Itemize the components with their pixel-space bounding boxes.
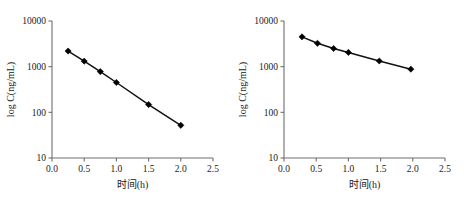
y-tick-label: 10000	[254, 16, 278, 26]
data-point-marker	[330, 45, 336, 51]
y-tick-label: 100	[32, 108, 47, 118]
x-tick-label: 0.5	[310, 164, 322, 174]
x-tick-label: 0.0	[46, 164, 58, 174]
x-tick-label: 1.0	[342, 164, 354, 174]
y-axis-tick-labels: 10000100010010	[254, 16, 278, 163]
axis-tick-marks	[281, 21, 446, 162]
y-axis-title: log C(ng/mL)	[237, 62, 249, 117]
data-point-marker	[376, 58, 382, 64]
x-tick-label: 0.0	[278, 164, 290, 174]
x-tick-label: 2.5	[207, 164, 219, 174]
x-tick-label: 2.0	[407, 164, 419, 174]
x-tick-label: 1.0	[110, 164, 122, 174]
chart-panel-right: 10000100010010 0.00.51.01.52.02.5 时间(h) …	[232, 0, 464, 198]
x-axis-tick-labels: 0.00.51.01.52.02.5	[46, 164, 219, 174]
y-axis-title: log C(ng/mL)	[5, 62, 17, 117]
y-tick-label: 1000	[27, 62, 46, 72]
y-tick-label: 10	[37, 153, 47, 163]
x-axis-title: 时间(h)	[117, 178, 149, 191]
series-markers	[299, 34, 414, 73]
x-tick-label: 1.5	[143, 164, 155, 174]
x-axis-title: 时间(h)	[349, 178, 381, 191]
data-point-marker	[299, 34, 305, 40]
y-tick-label: 100	[264, 108, 279, 118]
chart-panel-left: 10000100010010 0.00.51.01.52.02.5 时间(h) …	[0, 0, 232, 198]
y-tick-label: 10000	[22, 16, 46, 26]
x-axis-tick-labels: 0.00.51.01.52.02.5	[278, 164, 451, 174]
y-axis-tick-labels: 10000100010010	[22, 16, 46, 163]
axis-tick-marks	[49, 21, 214, 162]
plot-area-left: 10000100010010 0.00.51.01.52.02.5 时间(h) …	[0, 0, 232, 198]
figure-panels: 10000100010010 0.00.51.01.52.02.5 时间(h) …	[0, 0, 464, 198]
y-tick-label: 10	[269, 153, 279, 163]
data-point-marker	[408, 66, 414, 72]
plot-area-right: 10000100010010 0.00.51.01.52.02.5 时间(h) …	[232, 0, 464, 198]
y-tick-label: 1000	[259, 62, 278, 72]
data-point-marker	[345, 49, 351, 55]
x-tick-label: 2.5	[439, 164, 451, 174]
data-point-marker	[314, 40, 320, 46]
x-tick-label: 0.5	[78, 164, 90, 174]
x-tick-label: 1.5	[375, 164, 387, 174]
x-tick-label: 2.0	[175, 164, 187, 174]
